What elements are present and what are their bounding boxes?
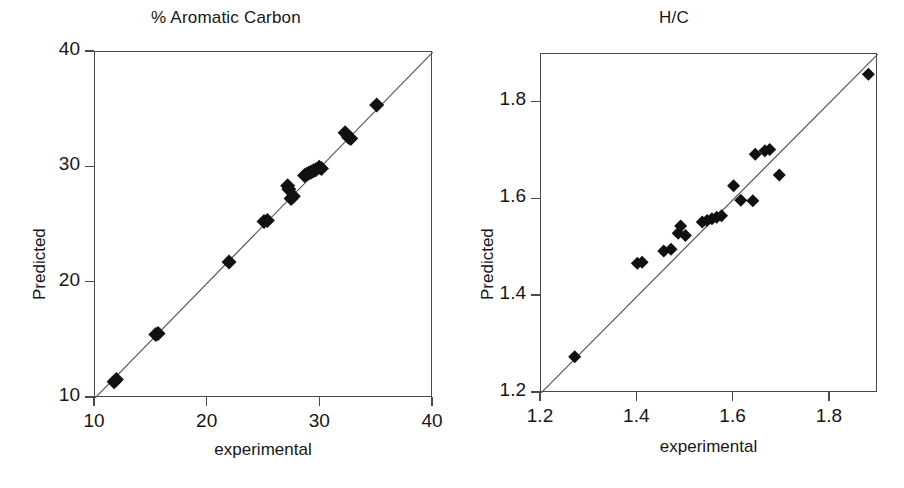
- x-axis-label: experimental: [94, 440, 432, 460]
- y-axis-tick-label: 20: [8, 269, 80, 291]
- y-axis-tick-label: 1.4: [454, 282, 526, 304]
- y-axis-tick-label: 1.6: [454, 185, 526, 207]
- x-axis-tick: [93, 397, 94, 406]
- panel-h-over-c: H/C Predicted experimental 1.21.41.61.81…: [452, 0, 904, 488]
- y-axis-tick: [531, 294, 540, 295]
- x-axis-tick-label: 1.6: [693, 405, 773, 427]
- figure-scatter-panels: % Aromatic Carbon Predicted experimental…: [0, 0, 904, 488]
- y-axis-tick: [85, 166, 94, 167]
- x-axis-label: experimental: [540, 437, 877, 457]
- data-point-marker: [222, 254, 237, 269]
- plot-canvas: [95, 52, 433, 398]
- x-axis-tick: [636, 392, 637, 401]
- x-axis-tick-label: 1.2: [500, 405, 580, 427]
- data-point-marker: [773, 169, 786, 182]
- y-axis-tick: [85, 50, 94, 51]
- x-axis-tick: [539, 392, 540, 401]
- panel-title: H/C: [462, 8, 886, 28]
- x-axis-tick-label: 30: [279, 410, 359, 432]
- data-point-marker: [727, 179, 740, 192]
- x-axis-tick-label: 1.4: [596, 405, 676, 427]
- plot-area: [94, 51, 432, 397]
- x-axis-tick: [828, 392, 829, 401]
- x-axis-tick: [732, 392, 733, 401]
- data-point-marker: [746, 194, 759, 207]
- y-axis-tick: [531, 101, 540, 102]
- x-axis-tick-label: 20: [167, 410, 247, 432]
- x-axis-tick: [431, 397, 432, 406]
- x-axis-tick: [206, 397, 207, 406]
- y-axis-tick-label: 30: [8, 153, 80, 175]
- data-point-marker: [734, 194, 747, 207]
- plot-canvas: [541, 54, 878, 393]
- panel-title: % Aromatic Carbon: [14, 8, 438, 28]
- data-point-marker: [369, 98, 384, 113]
- y-axis-tick-label: 10: [8, 384, 80, 406]
- plot-area: [540, 53, 877, 392]
- y-axis-tick: [531, 198, 540, 199]
- x-axis-tick-label: 10: [54, 410, 134, 432]
- y-axis-tick-label: 1.8: [454, 88, 526, 110]
- x-axis-tick: [319, 397, 320, 406]
- data-point-marker: [862, 68, 875, 81]
- x-axis-tick-label: 1.8: [789, 405, 869, 427]
- y-axis-tick: [85, 281, 94, 282]
- y-axis-tick-label: 1.2: [454, 379, 526, 401]
- data-point-marker: [568, 350, 581, 363]
- panel-aromatic-carbon: % Aromatic Carbon Predicted experimental…: [0, 0, 452, 488]
- y-axis-tick-label: 40: [8, 38, 80, 60]
- caption-remnant: [40, 476, 600, 486]
